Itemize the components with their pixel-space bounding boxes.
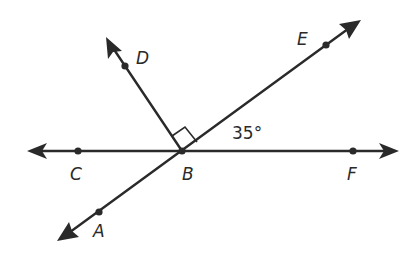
label-d: D	[136, 48, 149, 68]
point-a-dot	[95, 208, 102, 215]
label-e: E	[297, 29, 308, 49]
label-b: B	[182, 164, 194, 184]
label-c: C	[70, 164, 82, 184]
angle-label-35: 35°	[232, 123, 262, 143]
arrow-up-right-icon	[339, 20, 361, 39]
line-cf	[27, 143, 399, 159]
label-f: F	[347, 164, 357, 184]
geometry-diagram: D E C B F A 35°	[0, 0, 419, 255]
arrow-down-left-icon	[57, 222, 79, 241]
point-b-dot	[178, 147, 185, 154]
point-e-dot	[322, 41, 329, 48]
label-a: A	[92, 221, 105, 241]
point-c-dot	[74, 147, 81, 154]
line-ae	[57, 20, 361, 241]
point-d-dot	[121, 62, 128, 69]
point-f-dot	[349, 147, 356, 154]
